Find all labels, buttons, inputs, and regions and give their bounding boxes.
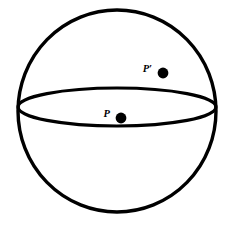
point-p-dot: [116, 113, 127, 124]
sphere-diagram: P′ P: [0, 0, 234, 227]
figure-background: [0, 0, 234, 227]
point-p-prime-label: P′: [143, 63, 152, 74]
point-p-prime-dot: [158, 68, 169, 79]
point-p-label: P: [104, 108, 111, 119]
figure-root: P′ P: [0, 0, 234, 227]
